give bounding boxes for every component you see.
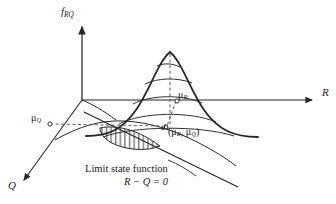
figure-canvas: fRQ R Q μR μQ d (μR, μQ) Limit state fun… (0, 0, 336, 204)
axis-label-frq: fRQ (61, 6, 74, 19)
label-mu-Q: μQ (31, 113, 41, 124)
diagram-svg (0, 0, 336, 204)
muR-connector-line (167, 101, 176, 126)
axis-label-Q: Q (8, 180, 16, 191)
caption-leader (168, 160, 196, 176)
label-mu-R: μR (178, 90, 187, 101)
base-plane-outline (55, 100, 236, 166)
muQ-projection-line (50, 124, 163, 126)
axis-label-frq-sub: RQ (64, 11, 74, 19)
label-mu-Q-sub: Q (36, 116, 41, 123)
failure-region (100, 127, 160, 150)
label-distance-d: d (161, 123, 166, 132)
caption-limit-state-equation: R − Q = 0 (124, 177, 168, 188)
axis-label-R: R (322, 87, 329, 98)
label-mean-point-coords: (μR, μQ) (168, 127, 199, 138)
marker-mu-Q-point (48, 122, 52, 126)
caption-limit-state-function: Limit state function (85, 164, 168, 175)
label-mu-R-sub: R (183, 93, 187, 100)
paren-close: ) (196, 126, 199, 137)
